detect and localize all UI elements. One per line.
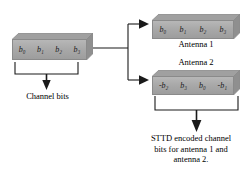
output-bracket	[155, 96, 238, 110]
antenna-2-bit-cell: -b₁	[218, 82, 227, 90]
channel-bit-cell: b₀	[19, 46, 26, 54]
input-bracket	[15, 62, 78, 74]
channel-bits-cells: b₀ b₁ b₂ b₃	[12, 39, 87, 60]
antenna-2-bit-cell: b₀	[199, 82, 206, 90]
channel-bit-cell: b₁	[37, 46, 44, 54]
output-arrow-head	[192, 120, 202, 132]
input-arrow-head	[42, 80, 50, 90]
antenna2-arrow-head	[139, 75, 149, 85]
channel-bits-caption: Channel bits	[0, 92, 95, 102]
antenna-2-bit-cell: -b₂	[159, 82, 168, 90]
antenna-2-cells: -b₂ b₃ b₀ -b₁	[152, 76, 234, 95]
channel-bits-block: b₀ b₁ b₂ b₃	[12, 33, 93, 60]
output-caption-line-3: antenna 2.	[131, 154, 251, 165]
antenna-2-caption: Antenna 2	[152, 58, 240, 68]
output-caption-line-2: bits for antenna 1 and	[131, 144, 251, 155]
antenna-1-bit-cell: b₃	[220, 26, 227, 34]
antenna-1-bit-cell: b₁	[180, 26, 187, 34]
channel-bit-cell: b₃	[73, 46, 80, 54]
antenna-1-bit-cell: b₂	[200, 26, 207, 34]
antenna-1-cells: b₀ b₁ b₂ b₃	[152, 20, 234, 39]
output-caption-line-1: STTD encoded channel	[131, 133, 251, 144]
antenna-1-block: b₀ b₁ b₂ b₃	[152, 14, 240, 39]
antenna-2-block: -b₂ b₃ b₀ -b₁	[152, 70, 240, 95]
antenna-2-bit-cell: b₃	[180, 82, 187, 90]
antenna1-arrow-head	[139, 19, 149, 29]
antenna-1-caption: Antenna 1	[152, 40, 240, 50]
channel-bit-cell: b₂	[55, 46, 62, 54]
sttd-encoding-diagram: b₀ b₁ b₂ b₃ Channel bits b₀ b₁ b₂ b₃ Ant…	[0, 0, 251, 176]
antenna-1-bit-cell: b₀	[160, 26, 167, 34]
output-caption: STTD encoded channel bits for antenna 1 …	[131, 133, 251, 165]
